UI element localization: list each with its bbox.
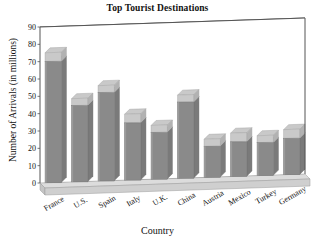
y-tick-label: 30 bbox=[28, 127, 36, 136]
bar-column bbox=[231, 128, 252, 177]
y-tick-label: 20 bbox=[28, 144, 36, 153]
x-tick-label: Germany bbox=[277, 184, 307, 207]
x-tick-label: Turkey bbox=[254, 187, 278, 206]
x-tick-label: U.K. bbox=[151, 192, 169, 208]
plot-area: 0102030405060708090 FranceU.S.SpainItaly… bbox=[0, 0, 315, 244]
y-tick-label: 50 bbox=[28, 92, 36, 101]
bar-column bbox=[45, 47, 66, 183]
x-tick-label: France bbox=[42, 194, 66, 213]
y-tick-label: 60 bbox=[28, 75, 36, 84]
y-tick-label: 90 bbox=[28, 23, 36, 32]
bar-column bbox=[98, 80, 119, 181]
x-tick-label: Italy bbox=[125, 193, 142, 208]
bar-column bbox=[125, 109, 146, 180]
y-tick-label: 0 bbox=[32, 179, 36, 188]
bar-column bbox=[72, 93, 93, 182]
x-tick-label: U.S. bbox=[72, 195, 89, 210]
y-tick-label: 40 bbox=[28, 110, 36, 119]
x-tick-label: Austria bbox=[201, 188, 226, 208]
y-tick-label: 70 bbox=[28, 58, 36, 67]
chart-figure: Top Tourist Destinations Number of Arriv… bbox=[0, 0, 315, 244]
bar-column bbox=[178, 90, 199, 179]
y-axis-ticks: 0102030405060708090 bbox=[28, 23, 36, 188]
y-tick-label: 10 bbox=[28, 162, 36, 171]
bar-column bbox=[257, 130, 278, 175]
x-tick-label: Spain bbox=[97, 193, 117, 210]
y-tick-label: 80 bbox=[28, 40, 36, 49]
bar-column bbox=[204, 134, 225, 178]
x-tick-label: China bbox=[176, 190, 197, 208]
x-tick-label: Mexico bbox=[227, 187, 253, 207]
bar-column bbox=[151, 120, 172, 179]
bar-column bbox=[284, 124, 305, 175]
